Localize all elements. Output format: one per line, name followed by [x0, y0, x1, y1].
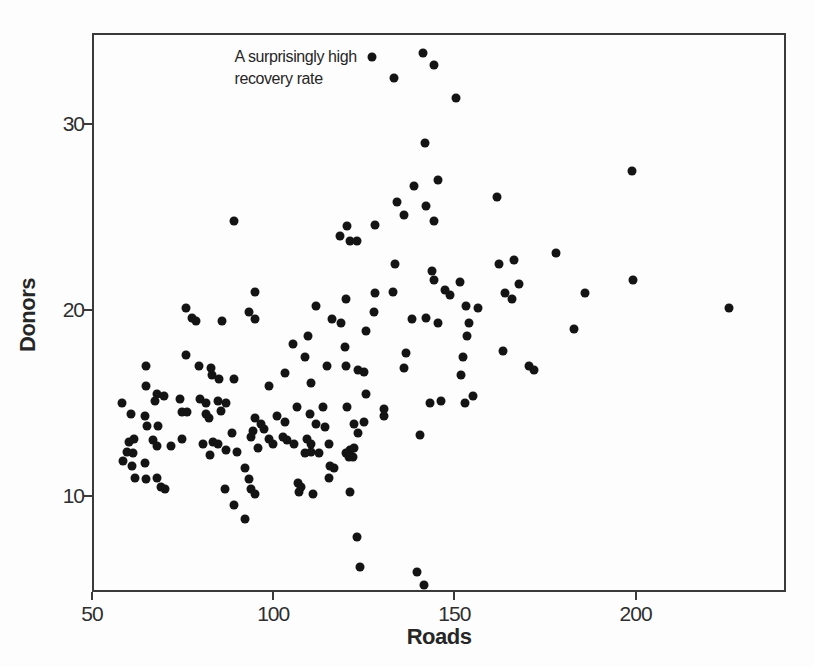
data-point: [390, 259, 399, 268]
data-point: [153, 473, 162, 482]
data-point: [400, 211, 409, 220]
data-point: [422, 313, 431, 322]
data-point: [201, 399, 210, 408]
data-point: [350, 443, 359, 452]
data-point: [581, 289, 590, 298]
y-tick-label: 10: [63, 484, 84, 508]
data-point: [434, 175, 443, 184]
data-point: [360, 417, 369, 426]
data-point: [380, 412, 389, 421]
data-point: [530, 365, 539, 374]
data-point: [178, 434, 187, 443]
data-point: [343, 222, 352, 231]
data-point: [227, 428, 236, 437]
data-point: [427, 267, 436, 276]
data-point: [494, 259, 503, 268]
data-point: [371, 289, 380, 298]
x-axis-tick: [453, 592, 455, 600]
data-point: [570, 324, 579, 333]
data-point: [182, 350, 191, 359]
data-point: [320, 423, 329, 432]
data-point: [230, 216, 239, 225]
data-point: [418, 49, 427, 58]
data-point: [462, 302, 471, 311]
data-point: [220, 484, 229, 493]
data-point: [281, 369, 290, 378]
data-point: [370, 308, 379, 317]
data-point: [251, 287, 260, 296]
data-point: [311, 302, 320, 311]
data-point: [217, 317, 226, 326]
data-point: [360, 367, 369, 376]
data-point: [352, 533, 361, 542]
data-point: [415, 430, 424, 439]
data-point: [204, 414, 213, 423]
data-point: [306, 378, 315, 387]
data-point: [409, 181, 418, 190]
data-point: [492, 192, 501, 201]
data-point: [153, 441, 162, 450]
data-point: [131, 473, 140, 482]
data-point: [289, 339, 298, 348]
data-point: [401, 348, 410, 357]
data-point: [241, 464, 250, 473]
data-point: [281, 417, 290, 426]
data-point: [461, 399, 470, 408]
data-point: [117, 399, 126, 408]
x-tick-label: 150: [438, 602, 470, 626]
x-tick-label: 100: [257, 602, 289, 626]
data-point: [151, 397, 160, 406]
data-point: [260, 425, 269, 434]
data-point: [182, 304, 191, 313]
data-point: [318, 402, 327, 411]
data-point: [269, 440, 278, 449]
data-point: [356, 562, 365, 571]
data-point: [430, 276, 439, 285]
data-point: [118, 456, 127, 465]
data-point: [429, 60, 438, 69]
data-point: [140, 412, 149, 421]
x-axis-tick: [272, 592, 274, 600]
data-point: [457, 371, 466, 380]
data-point: [389, 73, 398, 82]
data-point: [251, 490, 260, 499]
data-point: [229, 375, 238, 384]
data-point: [216, 406, 225, 415]
data-point: [425, 399, 434, 408]
data-point: [311, 419, 320, 428]
data-point: [128, 449, 137, 458]
data-point: [327, 315, 336, 324]
annotation-line-2: recovery rate: [234, 68, 356, 90]
data-point: [420, 138, 429, 147]
y-axis-tick: [84, 309, 92, 311]
data-point: [446, 291, 455, 300]
data-point: [353, 237, 362, 246]
data-point: [192, 317, 201, 326]
data-point: [627, 166, 636, 175]
data-point: [349, 453, 358, 462]
y-axis-title: Donors: [15, 165, 41, 465]
data-point: [342, 295, 351, 304]
y-axis-tick: [84, 123, 92, 125]
data-point: [346, 488, 355, 497]
data-point: [371, 220, 380, 229]
x-axis-tick: [91, 592, 93, 600]
data-point: [300, 352, 309, 361]
data-point: [294, 488, 303, 497]
scatter-figure: Roads Donors A surprisingly high recover…: [0, 0, 814, 667]
data-point: [176, 395, 185, 404]
data-point: [350, 419, 359, 428]
data-point: [329, 464, 338, 473]
data-point: [322, 361, 331, 370]
data-point: [389, 287, 398, 296]
data-point: [362, 326, 371, 335]
data-point: [303, 332, 312, 341]
data-point: [198, 440, 207, 449]
annotation-text: A surprisingly high recovery rate: [234, 46, 356, 90]
data-point: [167, 441, 176, 450]
data-point: [514, 280, 523, 289]
data-point: [408, 315, 417, 324]
data-point: [474, 304, 483, 313]
data-point: [160, 391, 169, 400]
data-point: [251, 315, 260, 324]
